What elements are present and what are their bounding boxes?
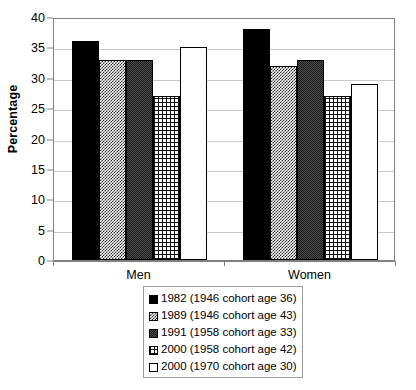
legend-swatch-icon — [149, 363, 158, 372]
y-axis: 4035302520151050 — [0, 0, 53, 262]
bar — [351, 84, 378, 260]
bar — [243, 29, 270, 260]
x-axis-tick-mark — [53, 261, 54, 266]
legend-item: 1991 (1958 cohort age 33) — [149, 325, 297, 341]
bar — [153, 96, 180, 260]
legend-item: 1989 (1946 cohort age 43) — [149, 308, 297, 324]
y-axis-tick-label: 40 — [31, 12, 45, 25]
bar — [297, 60, 324, 260]
legend-item-label: 2000 (1970 cohort age 30) — [161, 361, 297, 373]
y-axis-tick-label: 30 — [31, 73, 45, 86]
y-axis-tick-label: 0 — [38, 255, 45, 268]
legend-item-label: 1989 (1946 cohort age 43) — [161, 310, 297, 322]
legend-item-label: 1982 (1946 cohort age 36) — [161, 293, 297, 305]
x-axis-tick-mark — [224, 261, 225, 266]
plot-area — [53, 18, 395, 261]
legend-item: 2000 (1958 cohort age 42) — [149, 342, 297, 358]
bar — [126, 60, 153, 260]
legend-item: 1982 (1946 cohort age 36) — [149, 291, 297, 307]
y-axis-tick-label: 5 — [38, 224, 45, 237]
legend-swatch-icon — [149, 329, 158, 338]
y-axis-tick-label: 35 — [31, 42, 45, 55]
bar — [99, 60, 126, 260]
y-axis-tick-label: 15 — [31, 164, 45, 177]
x-axis-tick-mark — [395, 261, 396, 266]
bar — [72, 41, 99, 260]
chart-legend: 1982 (1946 cohort age 36)1989 (1946 coho… — [143, 286, 303, 378]
y-axis-tick-label: 25 — [31, 103, 45, 116]
bar — [324, 96, 351, 260]
gridline — [54, 49, 394, 50]
legend-swatch-icon — [149, 295, 158, 304]
bar-chart-figure: Percentage 4035302520151050 MenWomen 198… — [0, 0, 416, 390]
legend-item-label: 1991 (1958 cohort age 33) — [161, 327, 297, 339]
bar — [270, 66, 297, 260]
y-axis-tick-label: 20 — [31, 133, 45, 146]
bar — [180, 47, 207, 260]
x-axis-category-label: Women — [288, 268, 331, 282]
x-axis-category-label: Men — [126, 268, 150, 282]
y-axis-tick-label: 10 — [31, 194, 45, 207]
legend-swatch-icon — [149, 346, 158, 355]
legend-item: 2000 (1970 cohort age 30) — [149, 359, 297, 375]
legend-swatch-icon — [149, 312, 158, 321]
legend-item-label: 2000 (1958 cohort age 42) — [161, 344, 297, 356]
